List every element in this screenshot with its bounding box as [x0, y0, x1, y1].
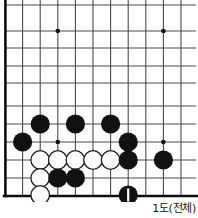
go-board-canvas[interactable]: [0, 0, 198, 202]
white-stone[interactable]: [31, 151, 50, 170]
star-point: [161, 29, 166, 34]
black-stone[interactable]: [66, 114, 85, 133]
white-stone[interactable]: [66, 151, 85, 170]
star-point: [56, 140, 61, 145]
white-stone[interactable]: [49, 151, 68, 170]
board-background: [0, 0, 198, 202]
black-stone[interactable]: [66, 168, 85, 187]
white-stone[interactable]: [31, 169, 50, 188]
black-stone[interactable]: [119, 150, 138, 169]
black-stone[interactable]: [154, 150, 173, 169]
black-stone[interactable]: [119, 132, 138, 151]
go-board[interactable]: [0, 0, 198, 202]
white-stone[interactable]: [101, 151, 120, 170]
white-stone[interactable]: [31, 186, 50, 202]
star-point: [161, 140, 166, 145]
black-stone[interactable]: [13, 132, 32, 151]
diagram-caption: 1도(전체): [0, 202, 196, 218]
white-stone[interactable]: [84, 151, 103, 170]
black-stone[interactable]: [31, 114, 50, 133]
black-stone[interactable]: [101, 114, 120, 133]
star-point: [56, 29, 61, 34]
black-stone[interactable]: [48, 168, 67, 187]
go-diagram-figure: 1도(전체): [0, 0, 198, 218]
